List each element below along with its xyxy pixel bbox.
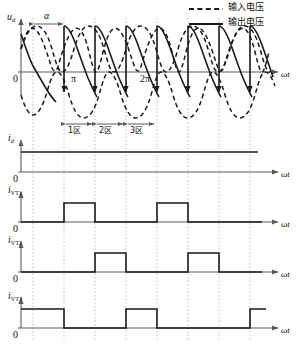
xtick-2pi: 2π <box>140 74 150 84</box>
vt1-waveform <box>21 203 262 222</box>
xaxis-label-id: ωt <box>281 170 290 179</box>
panel-id <box>18 140 278 172</box>
panel-vt2 <box>18 242 278 272</box>
zone-label-1: 1区 <box>68 127 81 135</box>
panel-vt3 <box>18 298 278 328</box>
waveform-canvas <box>0 0 301 352</box>
legend-marks <box>189 9 223 24</box>
alpha-label: α <box>44 11 49 21</box>
origin-label-vt3: 0 <box>13 330 18 340</box>
panel-vt1 <box>18 192 278 222</box>
xaxis-label-ud: ωt <box>281 70 290 79</box>
axis-label-vt1: iVT1 <box>8 185 22 196</box>
vt3-waveform <box>21 309 266 328</box>
vt2-waveform <box>21 253 262 272</box>
xaxis-label-vt1: ωt <box>281 220 290 229</box>
waveform-figure: 输入电压 输出电压 ud α 0 π 2π ωt 1区 2区 3区 id 0 ω… <box>0 0 301 352</box>
axis-label-vt3: iVT3 <box>8 291 22 302</box>
output-voltage-curve <box>21 26 273 102</box>
legend-label-output-voltage: 输出电压 <box>228 18 264 27</box>
xaxis-label-vt2: ωt <box>281 270 290 279</box>
xtick-pi: π <box>71 74 76 84</box>
origin-label-ud: 0 <box>13 74 18 84</box>
origin-label-vt2: 0 <box>13 274 18 284</box>
commutation-drops <box>64 26 250 92</box>
axis-label-ud: ud <box>7 12 15 23</box>
origin-label-vt1: 0 <box>13 224 18 234</box>
origin-label-id: 0 <box>13 174 18 184</box>
zone-label-2: 2区 <box>99 127 112 135</box>
axis-label-id: id <box>8 133 14 144</box>
panel-ud <box>18 19 278 118</box>
legend-label-input-voltage: 输入电压 <box>228 3 264 12</box>
zone-label-3: 3区 <box>130 127 143 135</box>
axis-label-vt2: iVT2 <box>8 235 22 246</box>
xaxis-label-vt3: ωt <box>281 326 290 335</box>
